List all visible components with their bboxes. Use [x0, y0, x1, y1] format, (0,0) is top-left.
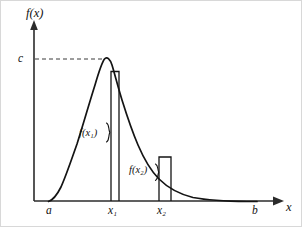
figure-canvas — [1, 1, 302, 227]
function-graph-figure: f(x) x c a x₁ x₂ b f(x₁) f(x₂) — [0, 0, 302, 227]
rect-at-x1 — [111, 72, 119, 202]
brace-f-x1 — [107, 123, 110, 142]
x-tick-label-x2: x₂ — [157, 205, 166, 217]
x-axis-label: x — [286, 201, 292, 214]
rect-at-x2 — [159, 157, 171, 201]
x-tick-label-x1: x₁ — [108, 205, 117, 217]
annotation-f-x1: f(x₁) — [79, 128, 97, 139]
y-axis-label: f(x) — [26, 7, 43, 20]
x-tick-label-a: a — [46, 205, 52, 217]
x-tick-label-b: b — [252, 205, 258, 217]
x-axis-arrowhead — [273, 197, 284, 206]
y-axis-arrowhead — [30, 20, 38, 30]
y-value-label-c: c — [18, 53, 23, 65]
annotation-f-x2: f(x₂) — [129, 165, 147, 176]
